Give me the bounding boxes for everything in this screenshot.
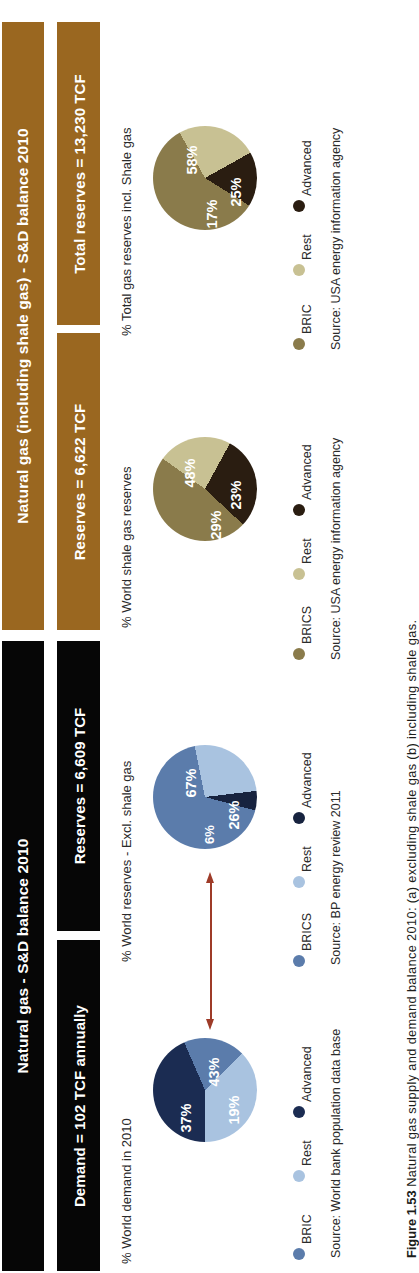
legend-swatch-rest [293, 876, 305, 888]
demand-value-bar: Demand = 102 TCF annually [57, 940, 100, 1271]
pie-chart-demand-2010: 43% 19% 37% [153, 1038, 257, 1142]
pie-chart-world-shale-gas-reserves: 48% 23% 29% [153, 437, 257, 541]
figure-number: Figure 1.53 [404, 1190, 419, 1258]
legend-swatch-rest [293, 264, 305, 276]
pie-slice-label-brics: 67% [183, 768, 199, 797]
pie-slice-label-rest: 23% [228, 480, 244, 509]
legend-label-bric: BRIC [300, 304, 314, 334]
legend-swatch-advanced [293, 812, 305, 824]
source-reserves: Source: BP energy review 2011 [330, 790, 343, 965]
pie-slice-label-advanced: 43% [206, 1057, 222, 1086]
demand-sub-caption: % World demand in 2010 [120, 1118, 133, 1264]
total-reserves-value-label: Total reserves = 13,230 TCF [70, 74, 87, 274]
source-total: Source: USA energy information agency [330, 128, 343, 350]
reserves-value-bar: Reserves = 6,609 TCF [57, 641, 100, 931]
legend-swatch-brics [293, 955, 305, 967]
legend-label-rest: Rest [300, 1140, 314, 1166]
legend-label-brics: BRICS [300, 913, 314, 951]
shale-reserves-value-bar: Reserves = 6,622 TCF [57, 333, 100, 630]
legend-swatch-bric [293, 1248, 305, 1260]
demand-value-label: Demand = 102 TCF annually [70, 1004, 87, 1206]
pie-slice-label-bric: 58% [184, 145, 200, 174]
legend-swatch-brics [293, 648, 305, 660]
pie-slice-label-bric: 19% [226, 1095, 242, 1124]
legend-label-bric: BRIC [300, 1214, 314, 1244]
legend-swatch-advanced [293, 200, 305, 212]
pie-chart-total-gas-reserves-incl-shale: 58% 25% 17% [153, 126, 257, 230]
legend-swatch-advanced [293, 1106, 305, 1118]
figure-caption-text: Natural gas supply and demand balance 20… [404, 620, 419, 1187]
pie-slice-label-advanced: 29% [208, 510, 224, 539]
legend-swatch-advanced [293, 504, 305, 516]
legend-label-rest: Rest [300, 846, 314, 872]
legend-label-brics: BRICS [300, 606, 314, 644]
arrow-head-down-icon [206, 1019, 214, 1030]
panel-b-title: Natural gas (including shale gas) - S&D … [14, 128, 32, 523]
panel-a-title-bar: Natural gas - S&D balance 2010 [2, 641, 44, 1271]
legend-label-advanced: Advanced [300, 752, 314, 808]
figure-caption: Figure 1.53 Natural gas supply and deman… [404, 620, 419, 1258]
shale-reserves-value-label: Reserves = 6,622 TCF [70, 403, 87, 560]
legend-label-rest: Rest [300, 538, 314, 564]
total-sub-caption: % Total gas reserves incl. Shale gas [120, 127, 133, 336]
source-shale: Source: USA energy information agency [330, 438, 343, 660]
panel-b-title-bar: Natural gas (including shale gas) - S&D … [2, 22, 44, 630]
pie-slice-label-advanced: 6% [202, 825, 217, 844]
legend-label-advanced: Advanced [300, 140, 314, 196]
legend-swatch-rest [293, 568, 305, 580]
legend-swatch-bric [293, 338, 305, 350]
shale-sub-caption: % World shale gas reserves [120, 466, 133, 628]
panel-a-title: Natural gas - S&D balance 2010 [14, 839, 32, 1074]
pie-slice-label-brics: 48% [182, 458, 198, 487]
legend-swatch-rest [293, 1170, 305, 1182]
legend-label-rest: Rest [300, 234, 314, 260]
pie-chart-reserves-excl-shale: 67% 26% 6% [153, 745, 257, 849]
source-demand: Source: World bank population data base [330, 1029, 343, 1258]
arrow-shaft [210, 880, 212, 1022]
legend-label-advanced: Advanced [300, 1046, 314, 1102]
reserves-sub-caption: % World reserves - Excl. shale gas [120, 761, 133, 962]
legend-label-advanced: Advanced [300, 444, 314, 500]
pie-slice-label-rest: 26% [226, 800, 242, 829]
pie-slice-label-rest: 25% [228, 177, 244, 206]
pie-slice-label-advanced: 17% [204, 199, 220, 228]
pie-slice-label-rest: 37% [178, 1103, 194, 1132]
reserves-value-label: Reserves = 6,609 TCF [70, 708, 87, 865]
total-reserves-value-bar: Total reserves = 13,230 TCF [57, 22, 100, 325]
flow-arrow [205, 872, 217, 1030]
